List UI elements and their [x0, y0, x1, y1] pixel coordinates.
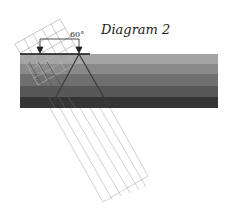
angle-label: 60°: [70, 30, 84, 39]
arrow-down-icon: [76, 47, 82, 53]
refracted-rays: [50, 108, 148, 202]
diagram-title: Diagram 2: [101, 22, 170, 37]
layered-medium: [20, 54, 218, 108]
diagram-canvas: 60° Diagram 2: [0, 0, 229, 212]
